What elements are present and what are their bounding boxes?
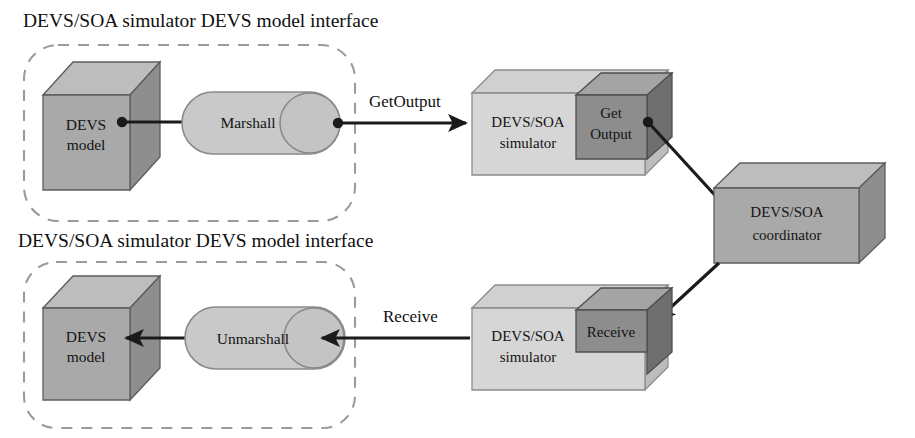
devs-soa-coordinator-box: DEVS/SOA coordinator (714, 163, 885, 263)
bottom-unmarshall-label: Unmarshall (217, 330, 289, 347)
get-output-service-label-line1: Get (600, 105, 622, 121)
bottom-unmarshall-component: Unmarshall (185, 307, 345, 369)
bottom-devs-model-label-line2: model (67, 348, 106, 365)
get-output-service-box: Get Output (576, 73, 672, 159)
get-output-source-dot (333, 118, 343, 128)
receive-service-label: Receive (587, 324, 636, 340)
diagram-canvas: DEVS/SOA simulator DEVS model interface … (0, 0, 915, 438)
getoutput-connector-source-dot (643, 117, 653, 127)
top-devs-model-label-line1: DEVS (66, 116, 106, 133)
top-simulator-label-line2: simulator (500, 135, 557, 151)
top-marshall-label: Marshall (220, 114, 275, 131)
bottom-simulator-label-line2: simulator (500, 349, 557, 365)
top-marshall-component: Marshall (182, 92, 340, 154)
top-interface-title: DEVS/SOA simulator DEVS model interface (23, 10, 378, 31)
coordinator-label-line2: coordinator (752, 227, 821, 243)
top-devs-model-label-line2: model (67, 136, 106, 153)
get-output-label: GetOutput (369, 92, 441, 111)
bottom-interface-title: DEVS/SOA simulator DEVS model interface (18, 230, 373, 251)
get-output-connector: GetOutput (333, 92, 466, 128)
top-devs-model-cube: DEVS model (43, 62, 160, 190)
top-model-port-dot (117, 117, 127, 127)
top-simulator-label-line1: DEVS/SOA (491, 114, 565, 130)
get-output-service-label-line2: Output (590, 126, 633, 142)
coordinator-label-line1: DEVS/SOA (750, 204, 824, 220)
receive-label: Receive (383, 307, 438, 326)
devs-soa-diagram: DEVS/SOA simulator DEVS model interface … (0, 0, 915, 438)
bottom-devs-model-label-line1: DEVS (66, 328, 106, 345)
bottom-simulator-label-line1: DEVS/SOA (491, 328, 565, 344)
